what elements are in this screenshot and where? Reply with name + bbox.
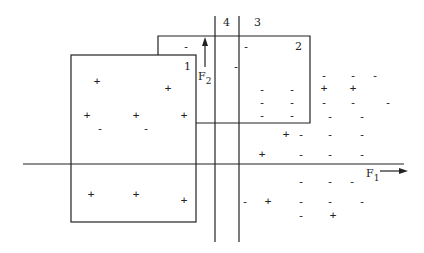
f2-axis-label: F2 xyxy=(198,71,211,82)
negative-sample-marker: - xyxy=(385,97,392,108)
negative-sample-marker: - xyxy=(298,210,305,221)
negative-sample-marker: - xyxy=(359,111,366,122)
negative-sample-marker: - xyxy=(298,129,305,140)
negative-sample-marker: - xyxy=(350,70,357,81)
positive-sample-marker: + xyxy=(350,83,357,94)
negative-sample-marker: - xyxy=(321,97,328,108)
negative-sample-marker: - xyxy=(359,196,366,207)
positive-sample-marker: + xyxy=(181,195,188,206)
negative-sample-marker: - xyxy=(233,61,240,72)
positive-sample-marker: + xyxy=(321,83,328,94)
negative-sample-marker: - xyxy=(143,123,150,134)
f1-arrow-head xyxy=(399,168,408,174)
positive-sample-marker: + xyxy=(265,196,272,207)
negative-sample-marker: - xyxy=(372,70,379,81)
region-2-label: 2 xyxy=(295,41,302,52)
positive-sample-marker: + xyxy=(165,83,172,94)
negative-sample-marker: - xyxy=(321,70,328,81)
negative-sample-marker: - xyxy=(327,196,334,207)
positive-sample-marker: + xyxy=(133,189,140,200)
negative-sample-marker: - xyxy=(298,176,305,187)
negative-sample-marker: - xyxy=(97,123,104,134)
negative-sample-marker: - xyxy=(289,97,296,108)
diagram-canvas xyxy=(0,0,424,253)
region-1-label: 1 xyxy=(184,61,191,72)
region-4-label: 4 xyxy=(223,17,230,28)
positive-sample-marker: + xyxy=(181,110,188,121)
negative-sample-marker: - xyxy=(298,149,305,160)
negative-sample-marker: - xyxy=(359,129,366,140)
negative-sample-marker: - xyxy=(259,97,266,108)
f2-arrow-head xyxy=(202,37,208,46)
positive-sample-marker: + xyxy=(330,210,337,221)
negative-sample-marker: - xyxy=(359,149,366,160)
positive-sample-marker: + xyxy=(84,110,91,121)
positive-sample-marker: + xyxy=(88,189,95,200)
positive-sample-marker: + xyxy=(133,110,140,121)
negative-sample-marker: - xyxy=(243,41,250,52)
f1-axis-letter: F xyxy=(366,167,374,180)
negative-sample-marker: - xyxy=(327,129,334,140)
region-3-label: 3 xyxy=(254,17,261,28)
negative-sample-marker: - xyxy=(289,84,296,95)
negative-sample-marker: - xyxy=(350,97,357,108)
negative-sample-marker: - xyxy=(289,110,296,121)
positive-sample-marker: + xyxy=(94,76,101,87)
f2-axis-letter: F xyxy=(198,70,206,83)
negative-sample-marker: - xyxy=(259,84,266,95)
positive-sample-marker: + xyxy=(283,129,290,140)
negative-sample-marker: - xyxy=(183,41,190,52)
negative-sample-marker: - xyxy=(349,176,356,187)
negative-sample-marker: - xyxy=(259,110,266,121)
negative-sample-marker: - xyxy=(327,111,334,122)
f1-axis-label: F1 xyxy=(366,168,379,179)
negative-sample-marker: - xyxy=(242,196,249,207)
negative-sample-marker: - xyxy=(327,149,334,160)
f2-axis-subscript: 2 xyxy=(206,76,212,86)
positive-sample-marker: + xyxy=(259,149,266,160)
f1-axis-subscript: 1 xyxy=(374,173,380,183)
negative-sample-marker: - xyxy=(298,196,305,207)
negative-sample-marker: - xyxy=(327,176,334,187)
